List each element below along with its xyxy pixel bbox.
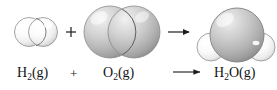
equation-reactant-h2: H2(g)	[17, 66, 48, 80]
oxygen-molecule-model: O	[84, 6, 160, 58]
oxygen-atom-sphere	[108, 6, 160, 58]
equation-reactant-h2-subscript: 2	[27, 72, 32, 82]
water-hydrogen-sphere-right	[247, 33, 275, 61]
oxygen-bond-seam	[122, 9, 136, 55]
hydrogen-bond-seam	[36, 18, 46, 46]
oxygen-atom-sphere	[84, 6, 136, 58]
hydrogen-molecule-model: H	[15, 18, 58, 47]
equation-product-h2o-element-o: O	[229, 65, 239, 80]
water-hydrogen-sphere-left	[197, 33, 225, 61]
equation-reactant-o2-element: O	[103, 65, 113, 80]
water-oxygen-sphere	[210, 8, 264, 62]
balanced-equation-caption: H2(g) + O2(g) H2O(g)	[0, 60, 277, 90]
hydrogen-atom-sphere	[15, 18, 44, 47]
hydrogen-highlight	[44, 22, 52, 28]
equation-reactant-h2-state: (g)	[32, 65, 48, 80]
water-oxygen-highlight	[214, 10, 237, 30]
oxygen-highlight	[133, 9, 151, 25]
reaction-diagram-figure: H O O	[0, 0, 277, 90]
equation-product-h2o-element-h: H	[214, 65, 224, 80]
water-hydrogen-highlight	[253, 41, 260, 45]
oxygen-highlight	[88, 8, 110, 27]
equation-plus-operator: +	[70, 67, 77, 80]
hydrogen-highlight	[18, 22, 28, 29]
hydrogen-atom-sphere	[29, 18, 58, 47]
equation-product-h2o-state: (g)	[239, 65, 255, 80]
equation-reactant-o2: O2(g)	[103, 66, 134, 80]
equation-product-h2o-subscript: 2	[224, 72, 229, 82]
equation-reactant-h2-element: H	[17, 65, 27, 80]
water-hydrogen-highlight	[202, 41, 209, 46]
equation-reactant-o2-subscript: 2	[113, 72, 118, 82]
water-molecule-model: O H	[197, 8, 275, 62]
top-plus-operator	[66, 27, 76, 37]
equation-reactant-o2-state: (g)	[118, 65, 134, 80]
equation-product-h2o: H2O(g)	[214, 66, 255, 80]
